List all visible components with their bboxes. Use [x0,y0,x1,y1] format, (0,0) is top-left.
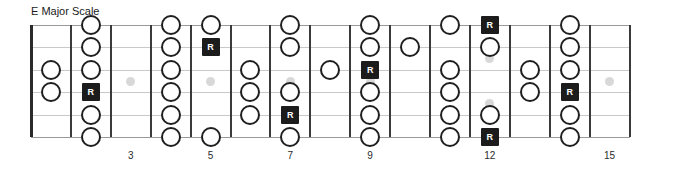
scale-note-f9-s2[interactable] [360,37,380,57]
scale-note-f4-s3[interactable] [161,60,181,80]
inlay-marker-fret-15 [605,77,614,86]
scale-note-f2-s1[interactable] [81,15,101,35]
fret-line-2 [110,25,112,137]
fret-line-13 [549,25,551,137]
fret-line-1 [70,25,72,137]
scale-note-f11-s6[interactable] [440,127,460,147]
scale-note-f9-s5[interactable] [360,105,380,125]
scale-note-f14-s2[interactable] [560,37,580,57]
scale-note-f4-s4[interactable] [161,82,181,102]
fret-line-4 [190,25,192,137]
scale-note-f12-s2[interactable] [480,37,500,57]
scale-note-f4-s6[interactable] [161,127,181,147]
scale-note-f2-s3[interactable] [81,60,101,80]
scale-note-f4-s2[interactable] [161,37,181,57]
scale-note-f1-s3[interactable] [41,60,61,80]
fret-line-15 [629,25,631,137]
fret-number-15: 15 [604,150,615,161]
scale-note-f11-s3[interactable] [440,60,460,80]
string-line-6 [31,137,630,138]
fret-line-9 [389,25,391,137]
scale-note-f9-s1[interactable] [360,15,380,35]
root-note-f5-s2[interactable]: R [202,38,220,56]
scale-note-f8-s3[interactable] [320,60,340,80]
scale-note-f13-s4[interactable] [520,82,540,102]
scale-note-f14-s1[interactable] [560,15,580,35]
scale-note-f11-s5[interactable] [440,105,460,125]
scale-note-f2-s5[interactable] [81,105,101,125]
nut-line [30,25,33,137]
fret-line-6 [269,25,271,137]
fret-line-5 [230,25,232,137]
scale-note-f14-s5[interactable] [560,105,580,125]
scale-note-f7-s1[interactable] [280,15,300,35]
fret-line-3 [150,25,152,137]
scale-note-f7-s4[interactable] [280,82,300,102]
scale-note-f6-s3[interactable] [240,60,260,80]
inlay-marker-fret-5 [206,77,215,86]
fret-line-7 [309,25,311,137]
root-note-f7-s5[interactable]: R [281,106,299,124]
fret-number-7: 7 [288,150,294,161]
fret-number-12: 12 [484,150,495,161]
scale-note-f7-s2[interactable] [280,37,300,57]
fret-line-12 [509,25,511,137]
scale-note-f13-s3[interactable] [520,60,540,80]
fret-number-5: 5 [208,150,214,161]
string-line-5 [31,115,630,116]
fret-line-11 [469,25,471,137]
root-note-f9-s3[interactable]: R [361,61,379,79]
root-note-f12-s6[interactable]: R [481,128,499,146]
scale-note-f2-s2[interactable] [81,37,101,57]
scale-note-f9-s4[interactable] [360,82,380,102]
inlay-marker-fret-3 [126,77,135,86]
scale-note-f6-s5[interactable] [240,105,260,125]
string-line-2 [31,47,630,48]
fret-line-14 [589,25,591,137]
fretboard-diagram: E Major Scale RRRRRRR 35791215 [0,0,683,179]
scale-note-f4-s5[interactable] [161,105,181,125]
scale-note-f14-s3[interactable] [560,60,580,80]
scale-note-f1-s4[interactable] [41,82,61,102]
scale-note-f4-s1[interactable] [161,15,181,35]
root-note-f14-s4[interactable]: R [561,83,579,101]
fret-line-8 [349,25,351,137]
scale-note-f7-s6[interactable] [280,127,300,147]
scale-note-f14-s6[interactable] [560,127,580,147]
scale-note-f5-s6[interactable] [201,127,221,147]
scale-note-f12-s5[interactable] [480,105,500,125]
fret-number-9: 9 [367,150,373,161]
scale-note-f6-s4[interactable] [240,82,260,102]
scale-note-f10-s2[interactable] [400,37,420,57]
scale-note-f2-s6[interactable] [81,127,101,147]
scale-note-f11-s1[interactable] [440,15,460,35]
fret-number-3: 3 [128,150,134,161]
root-note-f2-s4[interactable]: R [82,83,100,101]
scale-note-f11-s4[interactable] [440,82,460,102]
scale-note-f5-s1[interactable] [201,15,221,35]
scale-note-f9-s6[interactable] [360,127,380,147]
fret-line-10 [429,25,431,137]
string-line-1 [31,25,630,26]
root-note-f12-s1[interactable]: R [481,16,499,34]
